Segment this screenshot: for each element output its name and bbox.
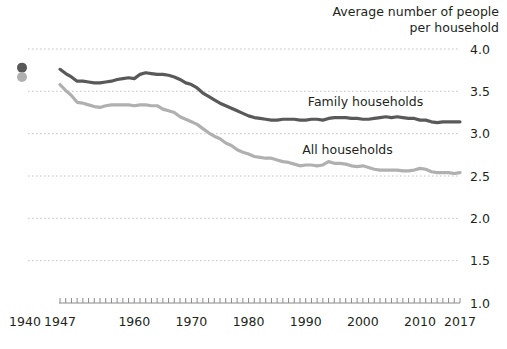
y-axis-tick-label: 1.5 xyxy=(470,253,490,268)
y-axis-tick-label: 3.0 xyxy=(470,126,490,141)
x-axis-tick-label: 1960 xyxy=(118,314,150,329)
axis-group xyxy=(59,298,460,303)
series-label-all-households: All households xyxy=(302,142,393,157)
x-axis-labels: 194019471960197019801990200020102017 xyxy=(9,314,476,329)
series-group xyxy=(60,69,460,173)
series-annotations: Family householdsAll households xyxy=(302,94,423,157)
x-axis-tick-label: 2000 xyxy=(347,314,379,329)
y-axis-tick-label: 3.5 xyxy=(470,84,490,99)
series-label-family-households: Family households xyxy=(308,94,423,109)
x-axis-tick-label: 1980 xyxy=(233,314,265,329)
y-axis-tick-label: 4.0 xyxy=(470,42,490,57)
detached-points-group xyxy=(17,63,27,82)
household-size-line-chart: Average number of people per household 4… xyxy=(0,0,507,349)
y-axis-tick-label: 2.0 xyxy=(470,211,490,226)
data-point-1940-all-households xyxy=(17,72,27,82)
gridlines-group xyxy=(28,49,460,261)
x-axis-tick-label: 2010 xyxy=(404,314,436,329)
data-point-1940-family-households xyxy=(17,63,27,73)
x-axis-tick-label: 1970 xyxy=(176,314,208,329)
x-axis-tick-label: 1990 xyxy=(290,314,322,329)
y-axis-labels: 4.03.53.02.52.01.51.0 xyxy=(470,42,490,311)
x-axis-tick-label: 2017 xyxy=(444,314,476,329)
plot-area: 4.03.53.02.52.01.51.0 194019471960197019… xyxy=(0,0,507,349)
x-axis-tick-label: 1947 xyxy=(44,314,76,329)
y-axis-tick-label: 2.5 xyxy=(470,169,490,184)
y-axis-tick-label: 1.0 xyxy=(470,296,490,311)
x-axis-tick-label: 1940 xyxy=(9,314,41,329)
